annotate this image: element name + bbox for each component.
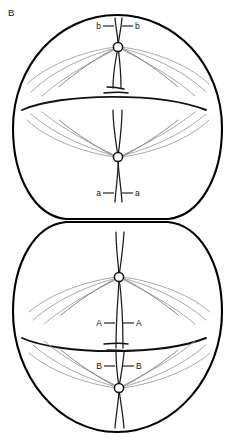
centromere: [113, 152, 122, 161]
allele-label-lower-top-left: A: [96, 318, 102, 328]
allele-label-lower-bottom-left: B: [96, 361, 102, 371]
allele-label-upper-bottom-right: a: [135, 188, 140, 198]
centromere: [113, 42, 122, 51]
allele-label-lower-top-right: A: [136, 318, 142, 328]
allele-label-upper-bottom-left: a: [96, 188, 101, 198]
upper-cell-equator-arc-segment: [104, 92, 128, 93]
meiosis-diagram-svg: B b b a a A A B B: [0, 0, 227, 438]
panel-label-b: B: [8, 7, 14, 18]
allele-label-upper-top-left: b: [96, 21, 101, 31]
lower-daughter-cell: [13, 222, 222, 432]
figure-panel-b: B b b a a A A B B: [0, 0, 227, 438]
centromere: [114, 383, 123, 392]
allele-label-lower-bottom-right: B: [136, 361, 142, 371]
upper-daughter-cell: [13, 15, 222, 219]
allele-label-upper-top-right: b: [135, 21, 140, 31]
centromere: [114, 272, 123, 281]
lower-cell-equator-arc-segment: [104, 343, 128, 344]
